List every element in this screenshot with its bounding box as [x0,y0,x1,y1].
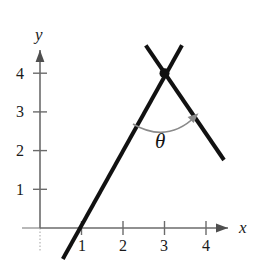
x-axis-label: x [239,219,247,236]
x-tick-label-1: 1 [72,238,92,254]
y-tick-label-1: 1 [12,182,28,198]
figure-canvas: y x 1 2 3 4 1 2 3 4 θ [0,0,264,264]
y-axis-arrowhead [36,50,45,62]
y-tick-label-2: 2 [12,143,28,159]
x-axis-arrowhead [216,224,228,233]
y-tick-label-3: 3 [12,104,28,120]
x-tick-label-4: 4 [196,238,216,254]
y-axis-label: y [35,26,43,43]
intersection-point-marker [160,68,170,78]
x-tick-label-3: 3 [154,238,174,254]
x-tick-label-2: 2 [113,238,133,254]
y-tick-label-4: 4 [12,66,28,82]
angle-theta-label: θ [155,131,165,152]
